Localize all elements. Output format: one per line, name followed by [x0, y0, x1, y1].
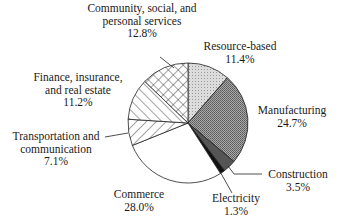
label-pct: 7.1%: [6, 155, 106, 168]
leader-transport: [105, 133, 128, 137]
label-transport: Transportation and communication 7.1%: [6, 130, 106, 168]
label-text: Finance, insurance,: [28, 71, 128, 84]
label-text: Construction: [260, 168, 336, 181]
label-pct: 28.0%: [104, 201, 174, 214]
label-manufacturing: Manufacturing 24.7%: [252, 104, 332, 129]
label-commerce: Commerce 28.0%: [104, 188, 174, 213]
label-finance: Finance, insurance, and real estate 11.2…: [28, 71, 128, 109]
leader-electricity: [218, 168, 232, 193]
pie-slices: [128, 63, 248, 183]
label-text: Transportation and: [6, 130, 106, 143]
pie-chart: Community, social, and personal services…: [0, 0, 340, 222]
label-text: personal services: [72, 15, 212, 28]
label-electricity: Electricity 1.3%: [204, 192, 268, 217]
label-text: Manufacturing: [252, 104, 332, 117]
label-pct: 1.3%: [204, 205, 268, 218]
label-pct: 24.7%: [252, 117, 332, 130]
label-pct: 12.8%: [72, 27, 212, 40]
label-text: communication: [6, 143, 106, 156]
label-pct: 11.4%: [190, 53, 290, 66]
label-text: Commerce: [104, 188, 174, 201]
label-text: and real estate: [28, 84, 128, 97]
label-pct: 11.2%: [28, 96, 128, 109]
leader-construction: [228, 166, 262, 174]
label-pct: 3.5%: [260, 181, 336, 194]
label-text: Resource-based: [190, 40, 290, 53]
label-construction: Construction 3.5%: [260, 168, 336, 193]
label-resource: Resource-based 11.4%: [190, 40, 290, 65]
label-text: Electricity: [204, 192, 268, 205]
label-community: Community, social, and personal services…: [72, 2, 212, 40]
label-text: Community, social, and: [72, 2, 212, 15]
